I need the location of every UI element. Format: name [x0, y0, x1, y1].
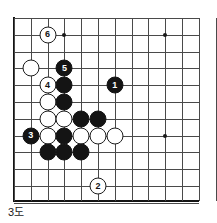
star-point [163, 33, 167, 37]
stone-white[interactable] [39, 110, 56, 127]
stone-black[interactable] [56, 144, 73, 161]
stone-black[interactable] [56, 77, 73, 94]
move-number-label: 6 [45, 30, 50, 39]
grid-line-horizontal [14, 18, 199, 19]
grid-line-vertical [132, 18, 133, 201]
grid-line-vertical [14, 18, 15, 201]
grid-line-horizontal [14, 52, 199, 53]
stone-white[interactable] [73, 127, 90, 144]
stone-black[interactable] [56, 94, 73, 111]
stone-black-move-1[interactable]: 1 [106, 77, 123, 94]
stone-white-move-4[interactable]: 4 [39, 77, 56, 94]
move-number-label: 1 [112, 80, 117, 89]
stone-black-move-3[interactable]: 3 [22, 127, 39, 144]
grid-line-horizontal [14, 186, 199, 187]
grid-line-vertical [182, 18, 183, 201]
stone-white[interactable] [22, 60, 39, 77]
stone-black[interactable] [56, 127, 73, 144]
go-diagram-figure: 654132 3도 [0, 0, 217, 223]
grid-line-vertical [115, 18, 116, 201]
figure-caption: 3도 [8, 203, 25, 219]
stone-white[interactable] [106, 127, 123, 144]
stone-white-move-2[interactable]: 2 [90, 178, 107, 195]
grid-line-vertical [148, 18, 149, 201]
grid-line-vertical [199, 18, 200, 201]
stone-black[interactable] [90, 110, 107, 127]
stone-white[interactable] [39, 127, 56, 144]
star-point [62, 33, 66, 37]
stone-black[interactable] [73, 144, 90, 161]
move-number-label: 3 [28, 131, 33, 140]
stone-white[interactable] [90, 127, 107, 144]
grid-line-vertical [165, 18, 166, 201]
move-number-label: 5 [62, 63, 67, 72]
grid-line-horizontal [14, 169, 199, 170]
stone-white[interactable] [39, 94, 56, 111]
stone-black[interactable] [73, 110, 90, 127]
grid-line-vertical [31, 18, 32, 201]
stone-black-move-5[interactable]: 5 [56, 60, 73, 77]
grid-line-horizontal [14, 203, 199, 204]
grid-line-horizontal [14, 68, 199, 69]
move-number-label: 2 [95, 181, 100, 190]
move-number-label: 4 [45, 80, 50, 89]
go-board[interactable]: 654132 [14, 18, 199, 201]
stone-white[interactable] [56, 110, 73, 127]
stone-black[interactable] [39, 144, 56, 161]
stone-white-move-6[interactable]: 6 [39, 26, 56, 43]
board-bottom-edge [13, 200, 199, 202]
star-point [163, 134, 167, 138]
grid-line-vertical [216, 18, 217, 201]
